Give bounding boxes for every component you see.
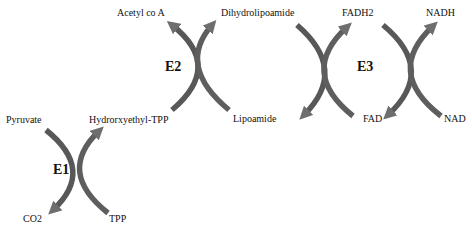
label-lipoamide: Lipoamide [233,114,276,124]
label-acetyl-coa: Acetyl co A [117,8,165,18]
label-nad: NAD [444,114,466,124]
arrow-tpp-to-hydroxyethyl-tpp [80,131,108,213]
e3-dihydrolipoamide-fad-cross [297,25,353,116]
label-pyruvate: Pyruvate [6,115,42,125]
label-fadh2: FADH2 [342,8,373,18]
label-nadh: NADH [426,8,455,18]
label-hydroxyethyl-tpp: Hydrorxyethyl-TPP [89,115,168,125]
arrow-fad-to-fadh2 [324,27,353,116]
label-dihydrolipoamide: Dihydrolipoamide [221,8,294,18]
pdh-complex-diagram: E1 E2 E3 Pyruvate Hydrorxyethyl-TPP CO2 … [0,0,472,231]
label-fad: FAD [363,114,382,124]
arrow-fadh2-to-fad [383,25,411,115]
arrow-dihydrolipoamide-to-lipoamide [297,25,325,115]
enzyme-label-e1: E1 [53,163,69,177]
label-tpp: TPP [109,214,126,224]
arrow-lipoamide-to-dihydrolipoamide [197,25,229,110]
arrow-nad-to-nadh [410,26,441,116]
enzyme-label-e2: E2 [165,60,181,74]
enzyme-label-e3: E3 [357,60,373,74]
e3-fadh2-nad-cross [383,25,441,116]
label-co2: CO2 [23,214,42,224]
